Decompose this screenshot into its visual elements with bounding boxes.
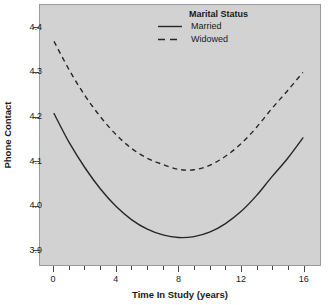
legend-label-married: Married xyxy=(191,20,222,33)
x-minor-tick-mark xyxy=(100,266,101,270)
x-minor-tick-mark xyxy=(163,266,164,270)
x-minor-tick-mark xyxy=(131,266,132,270)
legend: Marital Status Married Widowed xyxy=(155,9,275,46)
x-tick-label: 8 xyxy=(176,275,181,284)
x-minor-tick-mark xyxy=(147,266,148,270)
y-tick-label: 4.2 xyxy=(29,112,42,121)
legend-label-widowed: Widowed xyxy=(191,33,228,46)
x-tick-mark xyxy=(116,266,117,272)
y-tick-label: 4.3 xyxy=(29,67,42,76)
y-tick-label: 4.4 xyxy=(29,23,42,32)
series-line-widowed xyxy=(54,41,303,170)
x-minor-tick-mark xyxy=(84,266,85,270)
legend-key-dashed-line-icon xyxy=(155,33,185,46)
legend-key-solid-line-icon xyxy=(155,20,185,33)
x-minor-tick-mark xyxy=(257,266,258,270)
x-tick-label: 4 xyxy=(113,275,118,284)
chart-figure: 3.94.04.14.24.34.4 0481216 Phone Contact… xyxy=(0,0,330,305)
x-minor-tick-mark xyxy=(69,266,70,270)
x-minor-tick-mark xyxy=(210,266,211,270)
legend-item-married: Married xyxy=(155,20,275,33)
x-tick-mark xyxy=(178,266,179,272)
x-axis-title: Time In Study (years) xyxy=(39,289,321,300)
x-minor-tick-mark xyxy=(225,266,226,270)
legend-title: Marital Status xyxy=(155,9,275,20)
y-axis-title: Phone Contact xyxy=(2,4,14,266)
y-tick-label: 3.9 xyxy=(29,246,42,255)
x-minor-tick-mark xyxy=(272,266,273,270)
x-tick-label: 0 xyxy=(51,275,56,284)
x-minor-tick-mark xyxy=(288,266,289,270)
y-tick-label: 4.1 xyxy=(29,157,42,166)
series-line-married xyxy=(54,114,303,238)
x-tick-label: 16 xyxy=(299,275,309,284)
legend-item-widowed: Widowed xyxy=(155,33,275,46)
x-tick-label: 12 xyxy=(236,275,246,284)
x-minor-tick-mark xyxy=(194,266,195,270)
x-tick-mark xyxy=(241,266,242,272)
y-tick-label: 4.0 xyxy=(29,201,42,210)
x-tick-mark xyxy=(304,266,305,272)
x-tick-mark xyxy=(53,266,54,272)
